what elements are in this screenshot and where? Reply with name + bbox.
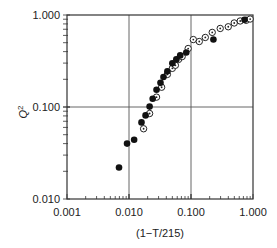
open-circle-marker <box>247 16 253 22</box>
open-circle-marker <box>140 126 146 132</box>
y-axis-title-sup: 2 <box>16 105 25 110</box>
x-tick-labels: 0.0010.0100.1001.000 <box>53 206 267 218</box>
y-tick-label: 0.100 <box>32 101 60 113</box>
filled-circle-marker <box>153 86 160 93</box>
x-tick-label: 0.100 <box>177 206 205 218</box>
filled-circle-marker <box>157 80 164 87</box>
open-circle-marker <box>231 20 237 26</box>
x-tick-label: 0.001 <box>53 206 81 218</box>
open-circle-marker <box>225 24 231 30</box>
filled-circle-marker <box>146 103 153 110</box>
open-circle-marker <box>209 29 215 35</box>
x-tick-label: 0.010 <box>115 206 143 218</box>
y-axis-title: Q2 <box>16 105 29 119</box>
filled-circle-marker <box>124 140 131 147</box>
x-tick-label: 1.000 <box>239 206 267 218</box>
open-circle-marker <box>217 25 223 31</box>
filled-circle-marker <box>183 49 190 56</box>
filled-circle-marker <box>142 112 149 119</box>
y-tick-label: 1.000 <box>32 9 60 21</box>
filled-circle-marker <box>241 16 248 23</box>
filled-circle-marker <box>149 95 156 102</box>
filled-circle-marker <box>160 74 167 81</box>
filled-circle-marker <box>138 119 145 126</box>
filled-circle-marker <box>210 36 217 43</box>
filled-circle-marker <box>116 164 123 171</box>
filled-circle-marker <box>177 52 184 59</box>
filled-circle-marker <box>164 68 171 75</box>
open-circle-marker <box>202 34 208 40</box>
open-circle-series <box>140 16 253 132</box>
y-tick-label: 0.010 <box>32 193 60 205</box>
scatter-chart: 0.0100.1001.000 0.0010.0100.1001.000 (1−… <box>0 0 277 248</box>
gridlines <box>67 15 253 199</box>
filled-circle-series <box>116 16 248 170</box>
open-circle-marker <box>190 36 196 42</box>
filled-circle-marker <box>131 137 138 144</box>
y-tick-labels: 0.0100.1001.000 <box>32 9 60 205</box>
open-circle-marker <box>196 38 202 44</box>
x-axis-title: (1−T/215) <box>136 227 184 239</box>
